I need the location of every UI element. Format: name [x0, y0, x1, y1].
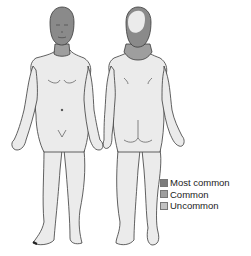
anterior-body-figure [12, 7, 103, 245]
legend-item-common: Common [160, 189, 230, 200]
legend-label: Most common [170, 177, 230, 188]
legend-label: Common [170, 189, 209, 200]
legend-swatch-uncommon [160, 202, 168, 210]
legend-label: Uncommon [170, 200, 219, 211]
legend-item-uncommon: Uncommon [160, 200, 230, 211]
legend: Most common Common Uncommon [160, 177, 230, 212]
legend-swatch-most-common [160, 179, 168, 187]
legend-swatch-common [160, 190, 168, 198]
body-map-figure [0, 0, 251, 256]
legend-item-most-common: Most common [160, 177, 230, 188]
